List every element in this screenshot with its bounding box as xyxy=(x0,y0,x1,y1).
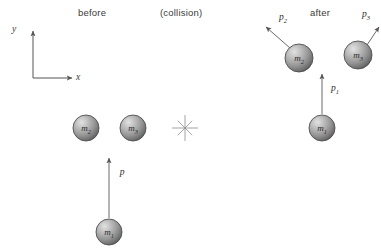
momentum-vector-after-p3 xyxy=(367,27,379,45)
mass-sphere-after-m1 xyxy=(309,115,335,141)
momentum-label-before-p: p xyxy=(120,167,125,177)
momentum-label-after-p2: p2 xyxy=(279,12,287,24)
collision-burst-icon xyxy=(172,115,198,141)
physics-collision-figure: before (collision) after y x pp1p2p3m1m2… xyxy=(0,0,381,250)
mass-sphere-after-m3 xyxy=(344,41,372,69)
phase-label-after: after xyxy=(310,7,330,18)
momentum-vector-after-p2 xyxy=(266,27,290,48)
mass-sphere-before-m3 xyxy=(120,115,146,141)
momentum-label-after-p1: p1 xyxy=(331,83,339,95)
mass-sphere-before-m1 xyxy=(96,219,122,245)
mass-spheres xyxy=(73,41,372,245)
coordinate-axes xyxy=(33,31,72,78)
phase-label-before: before xyxy=(78,7,106,18)
burst-ray xyxy=(185,121,192,128)
mass-sphere-before-m2 xyxy=(73,115,99,141)
burst-ray xyxy=(185,128,192,135)
x-axis-label: x xyxy=(76,72,80,82)
momentum-label-after-p3: p3 xyxy=(362,9,370,21)
mass-sphere-after-m2 xyxy=(285,44,313,72)
phase-label-collision: (collision) xyxy=(160,7,202,18)
y-axis-label: y xyxy=(12,24,16,34)
burst-ray xyxy=(178,128,185,135)
burst-ray xyxy=(178,121,185,128)
diagram-canvas xyxy=(0,0,381,250)
momentum-arrows xyxy=(109,27,379,218)
